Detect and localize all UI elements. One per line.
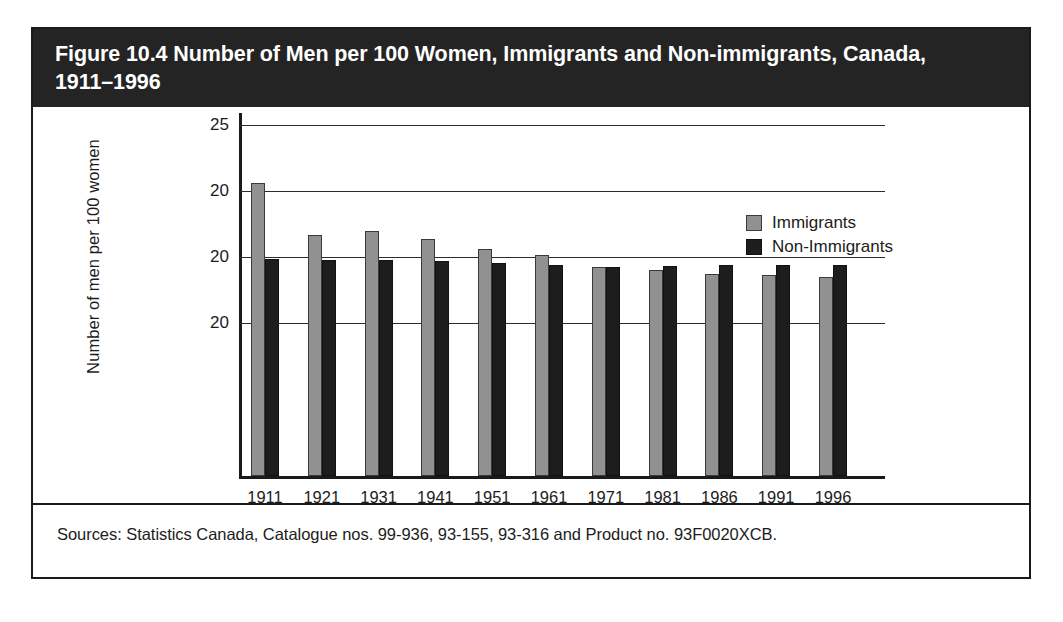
y-axis-tick-label: 20 — [210, 247, 229, 267]
bar-immigrants — [251, 183, 265, 476]
y-axis-tick-label: 25 — [210, 115, 229, 135]
chart-legend: Immigrants Non-Immigrants — [746, 211, 893, 259]
bar-non-immigrants — [265, 259, 279, 476]
plot-area: 25202020 1911192119311941195119611971198… — [239, 125, 885, 479]
bar-immigrants — [478, 249, 492, 476]
bar-immigrants — [762, 275, 776, 476]
bar-non-immigrants — [719, 265, 733, 476]
figure-container: Figure 10.4 Number of Men per 100 Women,… — [31, 27, 1031, 579]
source-note: Sources: Statistics Canada, Catalogue no… — [57, 525, 777, 544]
bar-immigrants — [421, 239, 435, 476]
bar-non-immigrants — [833, 265, 847, 476]
legend-item-immigrants: Immigrants — [746, 211, 893, 235]
bar-immigrants — [308, 235, 322, 476]
bar-non-immigrants — [663, 266, 677, 476]
gridline — [239, 125, 885, 126]
legend-swatch-non-immigrants-icon — [746, 239, 762, 255]
legend-label-non-immigrants: Non-Immigrants — [772, 237, 893, 257]
gridline — [239, 191, 885, 192]
bar-immigrants — [705, 274, 719, 476]
bar-immigrants — [365, 231, 379, 476]
bar-non-immigrants — [549, 265, 563, 476]
bar-non-immigrants — [322, 260, 336, 476]
bar-immigrants — [819, 277, 833, 476]
legend-item-non-immigrants: Non-Immigrants — [746, 235, 893, 259]
legend-swatch-immigrants-icon — [746, 215, 762, 231]
bar-non-immigrants — [492, 263, 506, 476]
bar-immigrants — [649, 270, 663, 476]
bar-immigrants — [592, 267, 606, 476]
bar-immigrants — [535, 255, 549, 476]
bar-non-immigrants — [379, 260, 393, 476]
figure-title: Figure 10.4 Number of Men per 100 Women,… — [55, 40, 1011, 96]
y-axis-tick-label: 20 — [210, 181, 229, 201]
bar-non-immigrants — [435, 261, 449, 476]
bar-non-immigrants — [606, 267, 620, 476]
bar-non-immigrants — [776, 265, 790, 476]
y-axis-tick-label: 20 — [210, 313, 229, 333]
source-divider — [33, 503, 1029, 505]
legend-label-immigrants: Immigrants — [772, 213, 856, 233]
y-axis-title: Number of men per 100 women — [84, 112, 103, 402]
x-axis-line — [239, 476, 885, 479]
chart-area: Number of men per 100 women 25202020 191… — [33, 107, 1029, 503]
figure-title-bar: Figure 10.4 Number of Men per 100 Women,… — [33, 29, 1029, 107]
y-axis-line — [239, 113, 242, 479]
